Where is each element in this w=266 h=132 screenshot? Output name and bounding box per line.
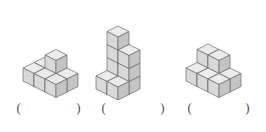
answer-3-close-paren: )	[245, 101, 250, 116]
answer-1-close-paren: )	[76, 101, 81, 116]
figure-2	[96, 26, 140, 100]
answer-1-open-paren: (	[16, 101, 21, 116]
answer-3-open-paren: (	[187, 101, 192, 116]
answer-2-open-paren: (	[101, 101, 106, 116]
cube-figures	[0, 0, 266, 100]
figure-3	[186, 44, 241, 98]
answer-2-close-paren: )	[160, 101, 165, 116]
figure-1	[23, 50, 78, 98]
